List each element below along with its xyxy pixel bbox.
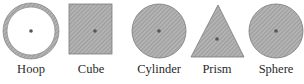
hoop-label: Hoop	[1, 62, 61, 77]
cube-label: Cube	[61, 62, 121, 77]
cylinder-label: Cylinder	[129, 62, 189, 77]
cube-shape	[69, 4, 112, 54]
center-dot-icon	[274, 29, 278, 33]
prism-shape	[191, 5, 244, 57]
hoop-shape	[3, 3, 59, 59]
sphere-shape	[249, 4, 303, 58]
center-dot-icon	[215, 37, 219, 41]
prism-label: Prism	[187, 62, 247, 77]
cylinder-shape	[132, 4, 186, 58]
center-dot-icon	[157, 29, 161, 33]
sphere-label: Sphere	[246, 62, 304, 77]
center-dot-icon	[93, 29, 97, 33]
center-dot-icon	[29, 29, 33, 33]
